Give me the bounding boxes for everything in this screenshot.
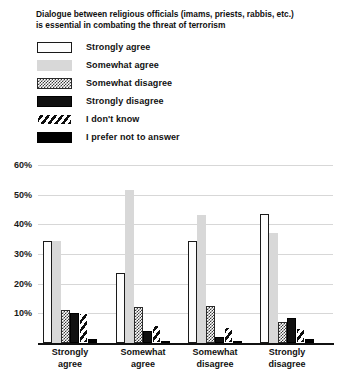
legend-label-somewhat-agree: Somewhat agree xyxy=(86,60,159,70)
legend-item-strongly-disagree: Strongly disagree xyxy=(37,92,327,110)
bar xyxy=(70,313,79,343)
bar xyxy=(197,215,206,343)
bar xyxy=(116,273,125,343)
legend-item-dont-know: I don't know xyxy=(37,110,327,128)
bar xyxy=(269,233,278,343)
y-axis-tick-label: 60% xyxy=(14,160,32,170)
y-axis-tick-label: 40% xyxy=(14,219,32,229)
y-axis-tick-labels: 60%50%40%30%20%10% xyxy=(0,160,36,350)
bar-group xyxy=(260,165,314,343)
legend-item-prefer-not-to-answer: I prefer not to answer xyxy=(37,128,327,146)
bar xyxy=(43,241,52,343)
chart-plot-area xyxy=(38,165,333,343)
x-axis-tick-label-line: Strongly xyxy=(252,347,322,359)
somewhat-agree-swatch-icon xyxy=(37,60,72,71)
legend-label-prefer-not-to-answer: I prefer not to answer xyxy=(86,132,180,142)
x-axis-tick-label: Somewhatagree xyxy=(108,347,178,370)
bar-group xyxy=(188,165,242,343)
x-axis-line xyxy=(38,343,334,345)
bar xyxy=(188,241,197,343)
chart-title-line-2: is essential in combating the threat of … xyxy=(36,20,336,31)
chart-legend: Strongly agree Somewhat agree Somewhat d… xyxy=(37,38,327,146)
strongly-disagree-swatch-icon xyxy=(37,96,72,107)
legend-label-strongly-disagree: Strongly disagree xyxy=(86,96,164,106)
bar xyxy=(287,318,296,343)
bar xyxy=(296,328,305,343)
x-axis-tick-label-line: Somewhat xyxy=(180,347,250,359)
x-axis-tick-label-line: Somewhat xyxy=(108,347,178,359)
bar xyxy=(206,306,215,343)
legend-label-dont-know: I don't know xyxy=(86,114,139,124)
chart-title-line-1: Dialogue between religious officials (im… xyxy=(36,9,336,20)
bar xyxy=(125,190,134,343)
bar xyxy=(260,214,269,343)
strongly-agree-swatch-icon xyxy=(37,42,72,53)
x-axis-tick-label-line: agree xyxy=(35,359,105,371)
bar xyxy=(79,313,88,343)
y-axis-tick-label: 30% xyxy=(14,249,32,259)
bar xyxy=(143,331,152,343)
bar-group xyxy=(43,165,97,343)
x-axis-tick-label: Stronglydisagree xyxy=(252,347,322,370)
x-axis-tick-label: Stronglyagree xyxy=(35,347,105,370)
chart-title: Dialogue between religious officials (im… xyxy=(36,9,336,30)
x-axis-tick-label-line: Strongly xyxy=(35,347,105,359)
x-axis-tick-labels: StronglyagreeSomewhatagreeSomewhatdisagr… xyxy=(38,347,334,381)
y-axis-tick-label: 50% xyxy=(14,190,32,200)
bar xyxy=(152,325,161,343)
x-axis-tick-label-line: disagree xyxy=(252,359,322,371)
legend-item-strongly-agree: Strongly agree xyxy=(37,38,327,56)
bar-group xyxy=(116,165,170,343)
somewhat-disagree-swatch-icon xyxy=(37,78,72,89)
bar xyxy=(61,310,70,343)
prefer-not-to-answer-swatch-icon xyxy=(37,132,72,143)
dont-know-swatch-icon xyxy=(37,114,72,125)
bar xyxy=(52,241,61,343)
bar xyxy=(278,322,287,343)
bar xyxy=(224,327,233,343)
legend-item-somewhat-disagree: Somewhat disagree xyxy=(37,74,327,92)
x-axis-tick-label-line: disagree xyxy=(180,359,250,371)
x-axis-tick-label: Somewhatdisagree xyxy=(180,347,250,370)
bar xyxy=(134,307,143,343)
legend-label-somewhat-disagree: Somewhat disagree xyxy=(86,78,172,88)
legend-item-somewhat-agree: Somewhat agree xyxy=(37,56,327,74)
legend-label-strongly-agree: Strongly agree xyxy=(86,42,150,52)
y-axis-tick-label: 10% xyxy=(14,308,32,318)
x-axis-tick-label-line: agree xyxy=(108,359,178,371)
y-axis-tick-label: 20% xyxy=(14,279,32,289)
